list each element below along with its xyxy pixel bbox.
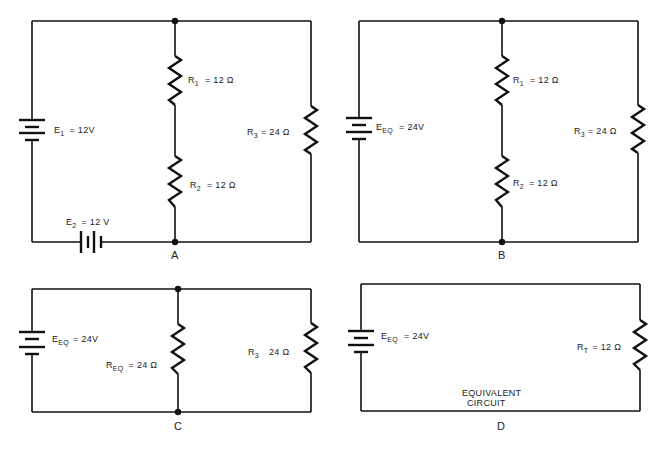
resistor-r1-icon [496,56,508,105]
label-eeq: EEQ= 24V [376,122,424,135]
battery-eeq-icon [19,332,45,354]
battery-eeq-icon [348,331,374,352]
panel-label-a: A [171,249,179,261]
label-r1: R1= 12 Ω [188,75,234,87]
label-r2: R2= 12 Ω [190,180,236,192]
junction-top [175,286,181,292]
label-r3: R3= 24 Ω [574,126,617,138]
circuit-diagrams: E1= 12V E2= 12 V R1= 12 Ω R2= 12 Ω R3= 2… [0,0,666,453]
resistor-r1-icon [169,56,181,105]
junction-top [499,18,505,24]
circuit-b: EEQ= 24V R1= 12 Ω R2= 12 Ω R3= 24 Ω B [346,18,644,261]
label-eeq: EEQ= 24V [52,334,98,347]
label-r3: R324 Ω [248,347,289,359]
circuit-a: E1= 12V E2= 12 V R1= 12 Ω R2= 12 Ω R3= 2… [19,18,317,261]
resistor-r2-icon [496,156,508,207]
resistor-r3-icon [305,323,317,373]
panel-label-d: D [497,420,505,432]
battery-e1-icon [19,120,45,140]
label-r2: R2= 12 Ω [513,178,558,190]
circuit-d: EEQ= 24V RT= 12 Ω EQUIVALENT CIRCUIT D [348,284,646,432]
label-req: REQ= 24 Ω [106,360,157,373]
label-r3: R3= 24 Ω [247,127,290,139]
panel-label-c: C [174,420,182,432]
resistor-r3-icon [632,105,644,153]
label-e2: E2= 12 V [66,217,110,229]
junction-bottom [499,239,505,245]
junction-top [172,18,178,24]
panel-label-b: B [498,249,506,261]
battery-eeq-icon [346,118,372,139]
resistor-r2-icon [169,156,181,207]
junction-bottom [172,239,178,245]
resistor-r3-icon [305,106,317,154]
caption-line-1: EQUIVALENT [462,388,522,398]
junction-bottom [175,409,181,415]
battery-e2-icon [81,231,101,253]
circuit-c: EEQ= 24V REQ= 24 Ω R324 Ω C [19,286,317,432]
label-r1: R1= 12 Ω [513,75,559,87]
resistor-rt-icon [634,320,646,370]
resistor-req-icon [172,324,184,374]
caption-line-2: CIRCUIT [467,398,506,408]
label-rt: RT= 12 Ω [577,342,621,354]
label-e1: E1= 12V [54,125,95,137]
label-eeq: EEQ= 24V [381,331,429,344]
